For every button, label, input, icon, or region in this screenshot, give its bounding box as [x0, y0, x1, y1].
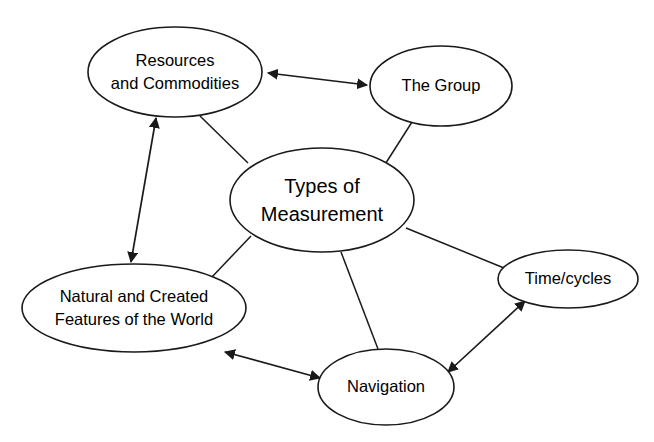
node-label-center-line2: Measurement — [261, 203, 384, 225]
edge-center-to-resources — [200, 116, 248, 163]
node-shape-types-of-measurement — [230, 148, 414, 252]
node-natural-and-created-features[interactable]: Natural and Created Features of the Worl… — [22, 264, 246, 352]
node-label-center-line1: Types of — [284, 175, 360, 197]
edge-center-to-natural-features — [211, 236, 251, 278]
node-label-natural-line2: Features of the World — [55, 310, 213, 328]
edge-center-to-navigation — [341, 252, 378, 349]
node-the-group[interactable]: The Group — [370, 46, 512, 126]
edge-center-to-the-group — [384, 122, 412, 166]
node-types-of-measurement[interactable]: Types of Measurement — [230, 148, 414, 252]
node-time-cycles[interactable]: Time/cycles — [498, 250, 638, 308]
edge-center-to-time-cycles — [406, 228, 504, 268]
node-navigation[interactable]: Navigation — [318, 349, 454, 425]
edge-resources-to-the-group — [268, 73, 367, 85]
edge-navigation-to-time-cycles — [448, 301, 525, 372]
node-label-navigation: Navigation — [347, 377, 425, 395]
concept-map-canvas: Resources and Commodities The Group Type… — [0, 0, 654, 442]
node-shape-resources — [88, 27, 262, 117]
edge-resources-to-natural-features — [131, 118, 156, 262]
concept-map-diagram: Resources and Commodities The Group Type… — [0, 0, 654, 442]
node-shape-natural-features — [22, 264, 246, 352]
edge-natural-features-to-navigation — [225, 352, 320, 378]
node-label-resources-line1: Resources — [136, 51, 215, 69]
node-label-time-cycles: Time/cycles — [525, 269, 611, 287]
node-resources-and-commodities[interactable]: Resources and Commodities — [88, 27, 262, 117]
node-label-the-group: The Group — [402, 76, 481, 94]
node-label-natural-line1: Natural and Created — [60, 287, 209, 305]
node-label-resources-line2: and Commodities — [111, 74, 239, 92]
